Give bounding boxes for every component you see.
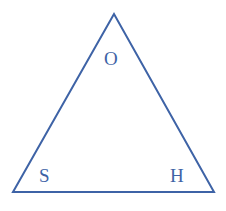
vertex-label-h: H (170, 166, 184, 185)
triangle-shape (0, 0, 226, 211)
vertex-label-s: S (39, 166, 50, 185)
vertex-label-o: O (104, 49, 118, 68)
figure-canvas: O S H (0, 0, 226, 211)
